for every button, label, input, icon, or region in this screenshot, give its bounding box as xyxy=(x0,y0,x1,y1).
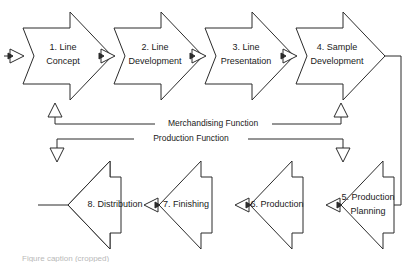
connector-stage5-stage6 xyxy=(326,198,342,212)
svg-text:Figure caption (cropped): Figure caption (cropped) xyxy=(22,254,109,262)
input-arrow-connector xyxy=(4,49,24,63)
stage-5-shape[interactable]: 5. Production Planning xyxy=(341,161,395,249)
stage-3-label-line2: Presentation xyxy=(221,56,272,66)
stage-8-label-line1: 8. Distribution xyxy=(87,199,142,209)
stage-1-label-line1: 1. Line xyxy=(49,42,76,52)
stage-6-label-line1: 6. Production xyxy=(250,199,303,209)
merchandising-function-bracket: Merchandising Function xyxy=(48,103,348,128)
stage-4-shape[interactable]: 4. Sample Development xyxy=(296,12,385,100)
production-function-label: Production Function xyxy=(153,133,229,143)
stage-6-shape[interactable]: 6. Production xyxy=(250,161,304,249)
connector-stage7-stage8 xyxy=(144,198,160,212)
stage-2-label-line1: 2. Line xyxy=(141,42,168,52)
stage-4-label-line2: Development xyxy=(310,56,364,66)
production-function-bracket: Production Function xyxy=(50,133,350,162)
stage-5-label-line2: Planning xyxy=(350,206,385,216)
stage-7-label-line1: 7. Finishing xyxy=(163,199,209,209)
merchandising-function-label: Merchandising Function xyxy=(168,118,259,128)
connector-stage6-stage7 xyxy=(235,198,251,212)
cropped-caption: Figure caption (cropped) xyxy=(22,254,109,262)
stage-2-label-line2: Development xyxy=(128,56,182,66)
process-flow-diagram: 1. Line Concept 2. Line Development 3. L… xyxy=(0,0,411,262)
stage-8-shape[interactable]: 8. Distribution xyxy=(68,161,143,249)
stage-5-label-line1: 5. Production xyxy=(341,192,394,202)
stage-7-shape[interactable]: 7. Finishing xyxy=(159,161,212,249)
stage-1-label-line2: Concept xyxy=(46,56,80,66)
stage-4-label-line1: 4. Sample xyxy=(317,42,358,52)
stage-3-label-line1: 3. Line xyxy=(232,42,259,52)
flow-diagram-canvas: 1. Line Concept 2. Line Development 3. L… xyxy=(0,0,411,262)
